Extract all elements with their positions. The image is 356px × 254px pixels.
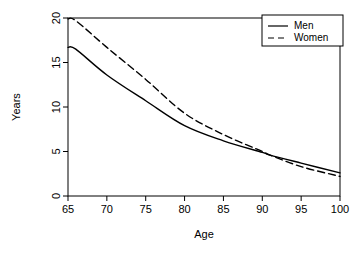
x-tick-label: 80 xyxy=(178,203,190,215)
x-tick-label: 100 xyxy=(331,203,349,215)
y-tick-label: 5 xyxy=(50,148,62,154)
y-tick-label: 10 xyxy=(50,101,62,113)
x-tick-label: 90 xyxy=(256,203,268,215)
legend-label-women: Women xyxy=(294,32,328,43)
y-axis-title: Years xyxy=(10,93,22,121)
y-tick-label: 0 xyxy=(50,193,62,199)
y-tick-label: 15 xyxy=(50,56,62,68)
x-tick-label: 70 xyxy=(101,203,113,215)
x-tick-label: 95 xyxy=(295,203,307,215)
chart-legend: Men Women xyxy=(262,15,343,46)
legend-label-men: Men xyxy=(294,20,313,31)
y-tick-label: 20 xyxy=(50,12,62,24)
chart-container: 65707580859095100 05101520 Age Years Men… xyxy=(0,0,356,254)
x-tick-label: 75 xyxy=(140,203,152,215)
x-axis-title: Age xyxy=(194,228,214,240)
x-tick-label: 85 xyxy=(217,203,229,215)
x-tick-label: 65 xyxy=(62,203,74,215)
line-chart: 65707580859095100 05101520 Age Years Men… xyxy=(0,0,356,254)
